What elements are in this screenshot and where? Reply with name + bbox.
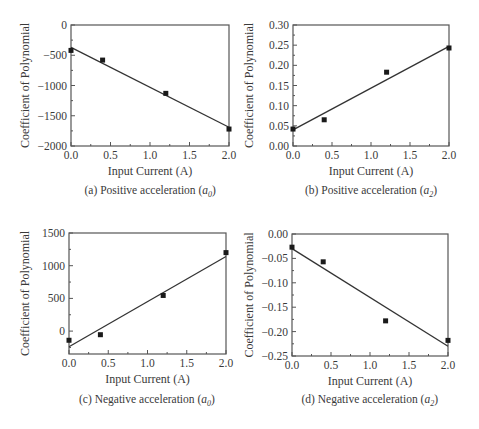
caption-variable: a2: [424, 393, 434, 405]
y-axis-label: Coefficient of Polynomial: [18, 230, 32, 356]
data-point: [98, 332, 103, 337]
chart-panel-c: 0.00.51.01.52.0150010005000Input Current…: [18, 227, 233, 386]
charts-canvas: 0.00.51.01.52.00−500−1000−1500−2000Input…: [0, 0, 479, 429]
x-tick-label: 1.5: [180, 357, 195, 369]
plot-frame: [292, 234, 448, 356]
data-point: [447, 45, 452, 50]
x-tick-label: 0.5: [325, 149, 340, 161]
x-tick-label: 0.0: [62, 357, 77, 369]
y-tick-label: −500: [43, 49, 67, 61]
chart-panel-d: 0.00.51.01.52.00.00−0.05−0.10−0.15−0.20−…: [242, 228, 455, 388]
caption-text: (a) Positive acceleration (: [85, 184, 203, 196]
y-axis-label: Coefficient of Polynomial: [242, 22, 256, 148]
x-tick-label: 1.0: [363, 359, 378, 371]
y-tick-label: 0.10: [269, 100, 289, 112]
chart-caption-a: (a) Positive acceleration (a0): [85, 184, 216, 199]
y-tick-label: −0.20: [261, 326, 288, 338]
y-tick-label: −1000: [38, 80, 68, 92]
y-tick-label: 1000: [42, 260, 65, 272]
x-axis-label: Input Current (A): [105, 372, 190, 386]
fit-line: [292, 249, 448, 347]
x-tick-label: 2.0: [442, 149, 457, 161]
y-tick-label: −0.15: [261, 301, 288, 313]
data-point: [291, 127, 296, 132]
data-point: [100, 58, 105, 63]
data-point: [446, 338, 451, 343]
y-tick-label: 0: [61, 19, 67, 31]
data-point: [321, 259, 326, 264]
fit-line: [69, 257, 226, 347]
y-tick-label: −1500: [38, 110, 68, 122]
y-tick-label: 0.20: [269, 59, 289, 71]
x-tick-label: 2.0: [219, 357, 234, 369]
y-tick-label: 1500: [42, 227, 65, 239]
plot-frame: [71, 25, 229, 146]
plot-frame: [293, 25, 449, 146]
caption-text: (c) Negative acceleration (: [79, 393, 201, 405]
caption-text: (d) Negative acceleration (: [302, 393, 425, 405]
caption-variable: a0: [201, 393, 211, 405]
y-tick-label: 0.00: [269, 140, 289, 152]
chart-caption-b: (b) Positive acceleration (a2): [305, 184, 437, 199]
x-axis-label: Input Current (A): [329, 164, 414, 178]
y-tick-label: −0.10: [261, 277, 288, 289]
x-tick-label: 1.0: [364, 149, 379, 161]
y-tick-label: 0.30: [269, 19, 289, 31]
fit-line: [293, 46, 449, 129]
x-tick-label: 1.5: [182, 149, 197, 161]
data-point: [383, 318, 388, 323]
x-axis-label: Input Current (A): [328, 374, 413, 388]
y-tick-label: 0.15: [269, 80, 289, 92]
y-tick-label: 0.25: [269, 39, 289, 51]
data-point: [224, 250, 229, 255]
data-point: [163, 91, 168, 96]
y-tick-label: 0: [59, 325, 65, 337]
y-tick-label: 0.00: [268, 228, 288, 240]
data-point: [161, 293, 166, 298]
chart-caption-c: (c) Negative acceleration (a0): [79, 393, 215, 408]
chart-panel-a: 0.00.51.01.52.00−500−1000−1500−2000Input…: [18, 19, 236, 178]
data-point: [322, 117, 327, 122]
y-tick-label: 500: [48, 292, 66, 304]
y-tick-label: −0.25: [261, 350, 288, 362]
y-tick-label: −0.05: [261, 252, 288, 264]
fit-line: [71, 47, 229, 127]
y-tick-label: 0.05: [269, 120, 289, 132]
data-point: [384, 70, 389, 75]
data-point: [67, 338, 72, 343]
caption-variable: a2: [423, 184, 433, 196]
x-tick-label: 1.5: [402, 359, 417, 371]
x-tick-label: 0.5: [101, 357, 116, 369]
x-tick-label: 1.0: [143, 149, 158, 161]
chart-caption-d: (d) Negative acceleration (a2): [302, 393, 439, 408]
data-point: [290, 245, 295, 250]
x-tick-label: 2.0: [441, 359, 456, 371]
chart-panel-b: 0.00.51.01.52.00.300.250.200.150.100.050…: [242, 19, 456, 178]
x-tick-label: 1.0: [140, 357, 155, 369]
x-tick-label: 1.5: [403, 149, 418, 161]
x-tick-label: 0.5: [103, 149, 118, 161]
y-axis-label: Coefficient of Polynomial: [242, 232, 256, 358]
data-point: [227, 127, 232, 132]
x-axis-label: Input Current (A): [108, 164, 193, 178]
plot-frame: [69, 233, 226, 354]
y-axis-label: Coefficient of Polynomial: [18, 22, 32, 148]
caption-variable: a0: [202, 184, 212, 196]
y-tick-label: −2000: [38, 140, 68, 152]
data-point: [69, 48, 74, 53]
caption-text: (b) Positive acceleration (: [305, 184, 423, 196]
x-tick-label: 2.0: [222, 149, 237, 161]
x-tick-label: 0.5: [324, 359, 339, 371]
